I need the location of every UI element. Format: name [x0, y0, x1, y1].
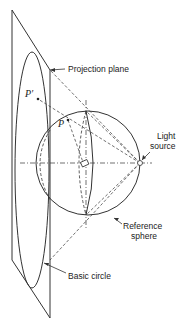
projection-plane	[12, 10, 50, 318]
ray-top	[50, 70, 140, 163]
ray-meridian-bottom	[86, 163, 140, 215]
label-reference-sphere-1: Reference	[123, 222, 162, 231]
ray-bottom	[50, 163, 140, 260]
label-basic-circle: Basic circle	[68, 272, 111, 281]
point-p-prime-dot	[37, 98, 40, 101]
label-projection-plane: Projection plane	[68, 65, 129, 74]
ray-meridian-top	[86, 111, 140, 163]
label-light-source-2: source	[150, 142, 176, 151]
label-light-source-1: Light	[157, 132, 175, 141]
light-source-icon	[138, 161, 143, 166]
label-point-p: P	[58, 118, 64, 129]
ray-p	[38, 99, 140, 163]
p-to-center	[68, 120, 84, 165]
point-p-dot	[67, 119, 70, 122]
label-point-p-prime: P′	[25, 88, 33, 99]
sphere-center-marker	[80, 159, 88, 166]
label-reference-sphere-2: sphere	[131, 232, 157, 241]
